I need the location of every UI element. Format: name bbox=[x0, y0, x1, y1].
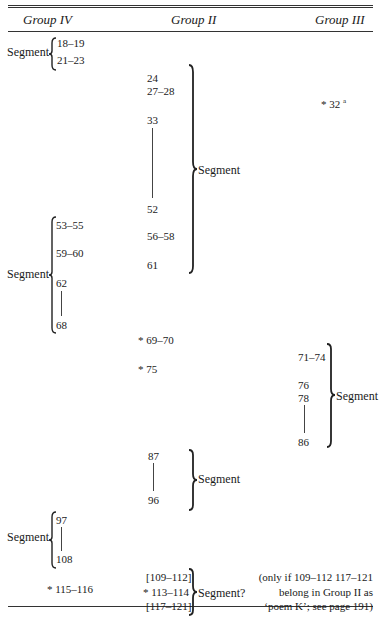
bracketed-item: [117–121] bbox=[146, 601, 191, 612]
right-brace-icon bbox=[188, 449, 198, 511]
note-line: ‘poem K’; see page 191) bbox=[252, 601, 373, 612]
item: 71–74 bbox=[298, 352, 326, 363]
item: 21–23 bbox=[57, 55, 85, 66]
starred-item: * 69–70 bbox=[138, 335, 174, 346]
segment-label: Segment bbox=[198, 164, 240, 176]
segment-label: Segment bbox=[7, 46, 49, 58]
range-line bbox=[153, 463, 154, 491]
left-brace-icon bbox=[49, 216, 57, 334]
header-group-iv: Group IV bbox=[23, 13, 72, 26]
segment-label: Segment? bbox=[198, 587, 245, 599]
item: 56–58 bbox=[147, 231, 175, 242]
item: 76 bbox=[298, 380, 309, 391]
item: 86 bbox=[298, 437, 309, 448]
right-brace-icon bbox=[188, 64, 198, 274]
item: 78 bbox=[298, 393, 309, 404]
item: 97 bbox=[56, 515, 67, 526]
note-line: belong in Group II as bbox=[252, 587, 373, 598]
starred-item: * 113–114 bbox=[143, 587, 189, 598]
item: 53–55 bbox=[56, 220, 84, 231]
range-line bbox=[304, 405, 305, 433]
starred-item: * 115–116 bbox=[47, 584, 93, 595]
starred-item: * 75 bbox=[138, 364, 157, 375]
right-brace-icon bbox=[188, 568, 198, 616]
item: 87 bbox=[148, 451, 159, 462]
item: 27–28 bbox=[147, 86, 175, 97]
asterisk: * bbox=[321, 98, 327, 110]
item: 59–60 bbox=[56, 248, 84, 259]
item: 24 bbox=[147, 73, 158, 84]
starred-item: * 32 a bbox=[321, 98, 346, 110]
item: 96 bbox=[148, 495, 159, 506]
right-brace-icon bbox=[326, 343, 336, 448]
segment-label: Segment bbox=[7, 531, 49, 543]
segment-label: Segment bbox=[336, 390, 378, 402]
bracketed-item: [109–112] bbox=[146, 572, 191, 583]
item: 33 bbox=[147, 115, 158, 126]
range-line bbox=[61, 291, 62, 316]
item: 108 bbox=[56, 554, 73, 565]
header-rule bbox=[8, 31, 373, 32]
header-group-ii: Group II bbox=[171, 13, 216, 26]
range-line bbox=[61, 527, 62, 551]
left-brace-icon bbox=[49, 37, 57, 71]
footnote-marker: a bbox=[343, 97, 346, 105]
item: 62 bbox=[56, 278, 67, 289]
item: 18–19 bbox=[57, 38, 85, 49]
top-rule-2 bbox=[8, 7, 373, 8]
item: 68 bbox=[56, 320, 67, 331]
top-rule bbox=[8, 5, 373, 6]
segment-label: Segment bbox=[198, 473, 240, 485]
note-line: (only if 109–112 117–121 bbox=[252, 572, 373, 583]
item: 52 bbox=[147, 204, 158, 215]
segment-label: Segment bbox=[7, 268, 49, 280]
range-line bbox=[152, 128, 153, 198]
item: 61 bbox=[147, 260, 158, 271]
header-group-iii: Group III bbox=[315, 13, 365, 26]
